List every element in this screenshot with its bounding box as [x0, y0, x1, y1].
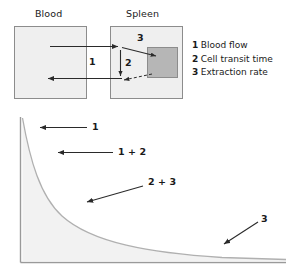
- legend-item-3-label: Extraction rate: [201, 67, 268, 77]
- blood-panel-title: Blood: [35, 9, 62, 19]
- legend-item-1-label: Blood flow: [201, 40, 248, 50]
- chart-annotation-arrow-2-3: [87, 186, 143, 202]
- chart-decay-area: [23, 118, 287, 262]
- diagram-label-extraction-rate: 3: [137, 33, 144, 43]
- figure-container: Blood Spleen 1 2 3 1Blood flow 2Cell tra…: [0, 0, 289, 277]
- blood-compartment-box: [15, 27, 87, 99]
- legend-item-3-number: 3: [192, 67, 198, 77]
- chart-annotation-label-2-3: 2 + 3: [148, 177, 176, 187]
- legend-item-2-number: 2: [192, 54, 198, 64]
- spleen-panel-title: Spleen: [126, 9, 159, 19]
- spleen-inner-compartment-box: [148, 48, 178, 78]
- legend-item-1: 1Blood flow: [192, 39, 273, 53]
- diagram-label-blood-flow: 1: [89, 57, 96, 67]
- legend-item-1-number: 1: [192, 40, 198, 50]
- chart-annotation-arrow-3: [224, 222, 258, 244]
- legend-item-3: 3Extraction rate: [192, 66, 273, 80]
- chart-annotation-label-3: 3: [261, 214, 268, 224]
- diagram-label-cell-transit-time: 2: [125, 58, 132, 68]
- legend-item-2: 2Cell transit time: [192, 53, 273, 67]
- legend-item-2-label: Cell transit time: [201, 54, 273, 64]
- chart-annotation-label-1-2: 1 + 2: [118, 147, 146, 157]
- chart-annotation-label-1: 1: [92, 122, 99, 132]
- legend: 1Blood flow 2Cell transit time 3Extracti…: [192, 39, 273, 80]
